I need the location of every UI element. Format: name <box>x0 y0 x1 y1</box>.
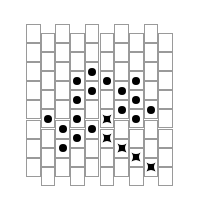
grid-cell[interactable] <box>158 167 173 186</box>
grid-cell[interactable] <box>100 90 115 109</box>
grid-cell[interactable] <box>85 43 100 62</box>
grid-cell[interactable] <box>158 90 173 109</box>
grid-cell[interactable] <box>85 81 100 100</box>
grid-cell[interactable] <box>70 167 85 186</box>
grid-cell[interactable] <box>55 24 70 43</box>
grid-cell[interactable] <box>144 120 159 139</box>
grid-cell[interactable] <box>70 109 85 128</box>
grid-cell[interactable] <box>129 167 144 186</box>
grid-cell[interactable] <box>100 148 115 167</box>
grid-cell[interactable] <box>144 81 159 100</box>
dot-icon <box>59 125 67 133</box>
grid-cell[interactable] <box>144 139 159 158</box>
grid-cell[interactable] <box>114 43 129 62</box>
grid-cell[interactable] <box>41 148 56 167</box>
grid-cell[interactable] <box>55 43 70 62</box>
grid-cell[interactable] <box>158 129 173 148</box>
grid-cell[interactable] <box>114 100 129 119</box>
dot-icon <box>132 96 140 104</box>
grid-cell[interactable] <box>85 158 100 177</box>
grid-cell[interactable] <box>114 158 129 177</box>
grid-cell[interactable] <box>26 100 41 119</box>
grid-cell[interactable] <box>26 158 41 177</box>
grid-cell[interactable] <box>114 120 129 139</box>
grid-cell[interactable] <box>129 109 144 128</box>
grid-cell[interactable] <box>100 109 115 128</box>
star-icon <box>131 152 141 162</box>
dot-icon <box>73 96 81 104</box>
grid-cell[interactable] <box>129 129 144 148</box>
grid-cell[interactable] <box>70 33 85 52</box>
dot-icon <box>118 87 126 95</box>
grid-cell[interactable] <box>144 24 159 43</box>
grid-cell[interactable] <box>26 24 41 43</box>
grid-cell[interactable] <box>70 129 85 148</box>
grid-cell[interactable] <box>158 109 173 128</box>
star-icon <box>102 133 112 143</box>
grid-cell[interactable] <box>41 167 56 186</box>
grid-cell[interactable] <box>70 71 85 90</box>
grid-cell[interactable] <box>129 148 144 167</box>
dot-icon <box>132 77 140 85</box>
grid-cell[interactable] <box>129 33 144 52</box>
dot-icon <box>88 68 96 76</box>
grid-cell[interactable] <box>26 120 41 139</box>
grid-cell[interactable] <box>70 52 85 71</box>
grid-cell[interactable] <box>55 81 70 100</box>
dot-icon <box>73 134 81 142</box>
grid-cell[interactable] <box>85 120 100 139</box>
dot-icon <box>118 106 126 114</box>
grid-cell[interactable] <box>100 129 115 148</box>
grid-cell[interactable] <box>144 62 159 81</box>
grid-cell[interactable] <box>100 33 115 52</box>
grid-cell[interactable] <box>70 148 85 167</box>
grid-cell[interactable] <box>114 81 129 100</box>
grid-cell[interactable] <box>26 139 41 158</box>
puzzle-board <box>0 0 202 203</box>
dot-icon <box>73 115 81 123</box>
grid-cell[interactable] <box>144 158 159 177</box>
grid-cell[interactable] <box>85 24 100 43</box>
grid-cell[interactable] <box>26 43 41 62</box>
grid-cell[interactable] <box>26 62 41 81</box>
grid-cell[interactable] <box>129 52 144 71</box>
dot-icon <box>132 115 140 123</box>
dot-icon <box>103 77 111 85</box>
grid-cell[interactable] <box>55 120 70 139</box>
grid-cell[interactable] <box>114 139 129 158</box>
dot-icon <box>73 77 81 85</box>
grid-cell[interactable] <box>158 71 173 90</box>
grid-cell[interactable] <box>100 52 115 71</box>
star-icon <box>117 143 127 153</box>
grid-cell[interactable] <box>158 52 173 71</box>
grid-cell[interactable] <box>114 24 129 43</box>
grid-cell[interactable] <box>41 33 56 52</box>
grid-cell[interactable] <box>85 100 100 119</box>
grid-cell[interactable] <box>41 109 56 128</box>
grid-cell[interactable] <box>41 90 56 109</box>
dot-icon <box>147 106 155 114</box>
grid-cell[interactable] <box>100 167 115 186</box>
grid-cell[interactable] <box>100 71 115 90</box>
grid-cell[interactable] <box>114 62 129 81</box>
grid-cell[interactable] <box>55 139 70 158</box>
grid-cell[interactable] <box>158 148 173 167</box>
grid-cell[interactable] <box>41 71 56 90</box>
grid-cell[interactable] <box>26 81 41 100</box>
grid-cell[interactable] <box>70 90 85 109</box>
grid-cell[interactable] <box>41 129 56 148</box>
dot-icon <box>44 115 52 123</box>
grid-cell[interactable] <box>85 62 100 81</box>
grid-cell[interactable] <box>55 100 70 119</box>
dot-icon <box>88 125 96 133</box>
grid-cell[interactable] <box>144 43 159 62</box>
grid-cell[interactable] <box>144 100 159 119</box>
grid-cell[interactable] <box>41 52 56 71</box>
grid-cell[interactable] <box>158 33 173 52</box>
grid-cell[interactable] <box>55 62 70 81</box>
grid-cell[interactable] <box>129 90 144 109</box>
dot-icon <box>59 144 67 152</box>
grid-cell[interactable] <box>129 71 144 90</box>
grid-cell[interactable] <box>85 139 100 158</box>
grid-cell[interactable] <box>55 158 70 177</box>
